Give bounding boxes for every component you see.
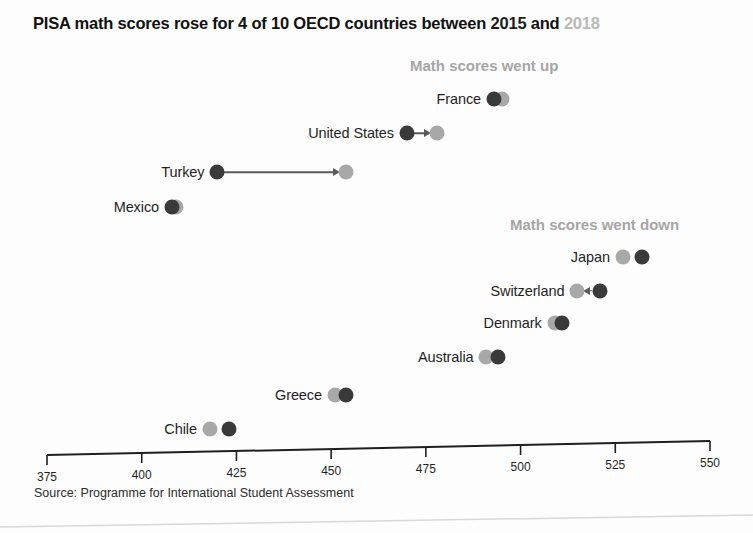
row-label-australia: Australia — [418, 349, 474, 365]
dot-2015-greece — [339, 387, 354, 402]
chart-row: Australia — [0, 346, 753, 368]
chart-row: France — [0, 88, 753, 110]
row-label-denmark: Denmark — [484, 315, 542, 331]
chart-row: Japan — [0, 246, 753, 268]
row-label-japan: Japan — [571, 249, 610, 265]
dot-2015-denmark — [555, 316, 570, 331]
dot-2018-chile — [202, 422, 217, 437]
page-edge-line — [0, 515, 753, 527]
dot-2015-france — [487, 92, 502, 107]
axis-tick-label: 400 — [132, 468, 152, 482]
row-label-mexico: Mexico — [114, 199, 159, 215]
chart-row: Mexico — [0, 196, 753, 218]
row-label-chile: Chile — [164, 421, 197, 437]
row-label-france: France — [437, 91, 482, 107]
dot-2015-turkey — [210, 165, 225, 180]
plot-area: FranceUnited StatesTurkeyMexicoJapanSwit… — [0, 0, 753, 470]
dot-2018-japan — [615, 249, 630, 264]
dot-2015-united-states — [399, 126, 414, 141]
chart-page: PISA math scores rose for 4 of 10 OECD c… — [0, 0, 753, 533]
dot-2018-turkey — [339, 165, 354, 180]
row-label-turkey: Turkey — [161, 164, 204, 180]
chart-row: Turkey — [0, 161, 753, 183]
dot-2015-chile — [221, 422, 236, 437]
row-label-united-states: United States — [308, 125, 394, 141]
chart-row: Denmark — [0, 312, 753, 334]
dot-2015-mexico — [165, 200, 180, 215]
dot-2015-australia — [490, 349, 505, 364]
change-connector — [223, 171, 338, 173]
dot-2018-united-states — [430, 126, 445, 141]
dot-2018-switzerland — [570, 283, 585, 298]
chart-row: United States — [0, 122, 753, 144]
chart-row: Chile — [0, 418, 753, 440]
axis-tick-label: 375 — [37, 470, 57, 484]
chart-row: Greece — [0, 384, 753, 406]
chart-row: Switzerland — [0, 280, 753, 302]
row-label-greece: Greece — [275, 387, 322, 403]
dot-2015-japan — [634, 249, 649, 264]
source-note: Source: Programme for International Stud… — [34, 486, 354, 500]
dot-2015-switzerland — [593, 283, 608, 298]
row-label-switzerland: Switzerland — [491, 283, 565, 299]
